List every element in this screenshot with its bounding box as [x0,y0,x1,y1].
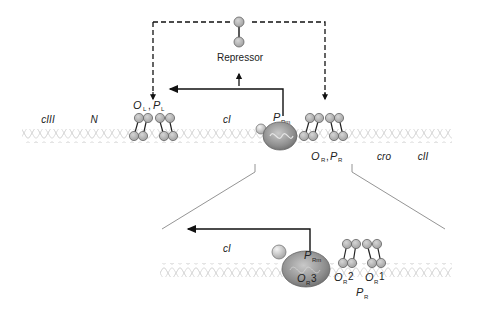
svg-text:O: O [365,271,374,283]
repressor-dimer-icon [234,17,244,47]
svg-text:R: R [364,294,369,300]
gene-cIII-label: cIII [41,114,55,125]
repressor-label: Repressor [217,52,264,63]
svg-text:P: P [273,111,281,123]
gene-cI-label-zoom: cI [223,243,231,254]
gene-N-label: N [90,114,98,125]
svg-text:L: L [143,106,147,112]
pRm-transcription-arrow-zoom [188,229,310,257]
svg-text:,: , [148,100,151,111]
pr-label-zoom: P R [356,286,369,300]
svg-text:Rm: Rm [312,257,321,263]
zoom-callout-lines [162,164,445,229]
or-pr-label: O R , P R [311,150,343,163]
svg-text:3: 3 [311,273,317,284]
svg-text:P: P [153,99,161,111]
svg-text:1: 1 [379,271,385,282]
svg-text:P: P [330,150,338,162]
svg-text:L: L [161,106,165,112]
svg-text:O: O [311,150,320,162]
pRm-transcription-arrow [170,89,283,116]
gene-cII-label: cII [418,151,429,162]
svg-text:P: P [304,249,312,261]
dna-helix-top [22,129,452,143]
svg-text:R: R [338,157,343,163]
svg-text:O: O [133,99,142,111]
svg-text:O: O [334,271,343,283]
gene-cI-label: cI [223,114,231,125]
lambda-regulation-diagram: Repressor cIII N cI cro cII O L , P L P [0,0,480,311]
ol-pl-label: O L , P L [133,99,165,112]
svg-text:O: O [297,272,306,284]
svg-text:P: P [356,286,364,298]
svg-text:2: 2 [348,271,354,282]
svg-text:,: , [326,151,329,162]
gene-cro-label: cro [377,151,391,162]
